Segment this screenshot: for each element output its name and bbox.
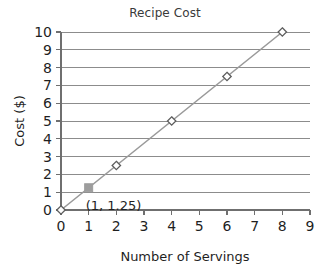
x-tick-label: 1	[84, 218, 93, 234]
x-axis-tick-labels: 0123456789	[57, 218, 315, 234]
recipe-cost-chart: Recipe Cost 012345678910 0123456789 (1, …	[0, 0, 330, 270]
y-tick-label: 7	[43, 77, 52, 93]
y-tick-label: 9	[43, 42, 52, 58]
y-axis-title: Cost ($)	[12, 95, 27, 146]
y-axis-ticks	[56, 32, 61, 210]
plot-area: 012345678910 0123456789 (1, 1.25) Number…	[0, 0, 330, 270]
y-tick-label: 2	[43, 166, 52, 182]
y-tick-label: 10	[34, 24, 52, 40]
x-tick-label: 2	[112, 218, 121, 234]
y-tick-label: 4	[43, 131, 52, 147]
y-tick-label: 6	[43, 95, 52, 111]
x-tick-label: 8	[278, 218, 287, 234]
x-axis-title: Number of Servings	[120, 249, 249, 264]
x-tick-label: 6	[223, 218, 232, 234]
y-tick-label: 5	[43, 113, 52, 129]
y-tick-label: 3	[43, 149, 52, 165]
y-axis-tick-labels: 012345678910	[34, 24, 52, 218]
y-tick-label: 1	[43, 184, 52, 200]
highlighted-point-marker	[85, 184, 93, 192]
x-tick-label: 0	[57, 218, 66, 234]
point-annotation-label: (1, 1.25)	[86, 198, 142, 213]
x-tick-label: 9	[306, 218, 315, 234]
y-tick-label: 0	[43, 202, 52, 218]
x-tick-label: 3	[140, 218, 149, 234]
x-tick-label: 7	[250, 218, 259, 234]
gridlines	[61, 32, 310, 192]
x-tick-label: 4	[167, 218, 176, 234]
x-tick-label: 5	[195, 218, 204, 234]
y-tick-label: 8	[43, 60, 52, 76]
point-annotations: (1, 1.25)	[85, 184, 142, 213]
